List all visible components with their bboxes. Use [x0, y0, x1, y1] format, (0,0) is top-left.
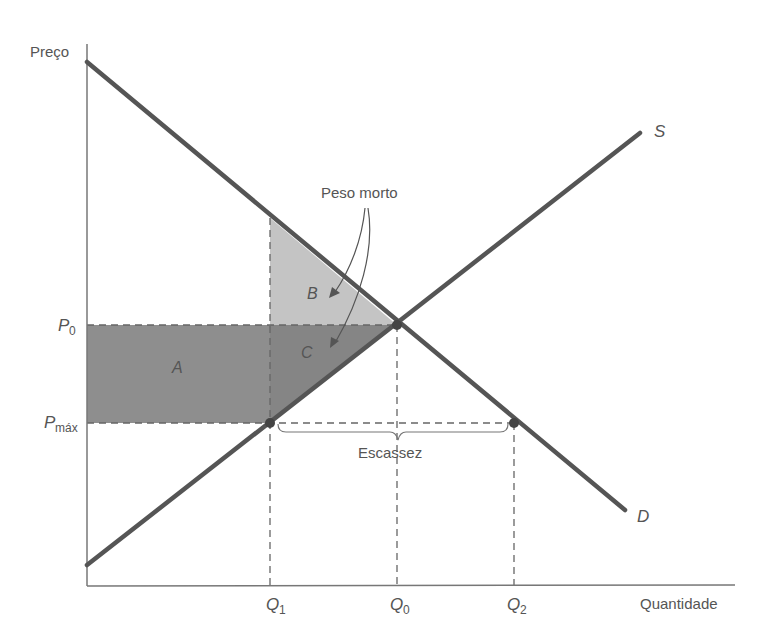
- x-axis: [87, 585, 735, 586]
- area-a-label: A: [171, 359, 183, 376]
- shortage-brace: [278, 424, 508, 440]
- q1-point: [265, 418, 275, 428]
- q1-subscript: 1: [279, 603, 286, 617]
- y-axis-label: Preço: [30, 43, 69, 60]
- deadweight-label: Peso morto: [321, 184, 398, 201]
- area-b: [270, 218, 397, 325]
- area-c-label: C: [301, 344, 313, 361]
- x-axis-label: Quantidade: [640, 595, 718, 612]
- equilibrium-point: [392, 320, 402, 330]
- q1-label: Q: [266, 595, 279, 614]
- q2-label: Q: [507, 595, 520, 614]
- q2-point: [509, 418, 519, 428]
- shortage-label: Escassez: [358, 444, 422, 461]
- area-b-label: B: [307, 285, 318, 302]
- q2-subscript: 2: [520, 603, 527, 617]
- demand-curve: [87, 62, 625, 510]
- q0-label: Q: [390, 595, 403, 614]
- price-ceiling-diagram: Preço Quantidade S D P 0 P máx Q 1 Q 0 Q…: [0, 0, 775, 642]
- p0-subscript: 0: [69, 324, 76, 338]
- demand-label: D: [637, 507, 649, 526]
- q0-subscript: 0: [403, 603, 410, 617]
- pmax-subscript: máx: [55, 421, 78, 435]
- supply-label: S: [654, 122, 666, 141]
